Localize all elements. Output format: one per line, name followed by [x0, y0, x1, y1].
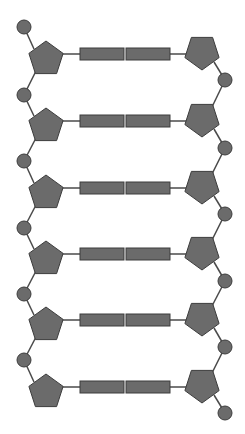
- dna-ladder-canvas: [0, 0, 245, 434]
- phosphate-left: [17, 353, 31, 367]
- sugar-pentagon-right: [185, 104, 219, 137]
- base-right: [126, 48, 170, 60]
- sugar-pentagon-left: [29, 307, 63, 340]
- phosphate-right: [218, 274, 232, 288]
- phosphate-left: [17, 287, 31, 301]
- sugar-pentagon-right: [185, 303, 219, 336]
- base-right: [126, 182, 170, 194]
- base-right: [126, 381, 170, 393]
- sugar-pentagon-left: [29, 374, 63, 407]
- base-left: [80, 48, 124, 60]
- phosphate-right: [218, 340, 232, 354]
- base-left: [80, 115, 124, 127]
- sugar-pentagon-left: [29, 175, 63, 208]
- base-right: [126, 248, 170, 260]
- phosphate-left: [17, 221, 31, 235]
- sugar-pentagon-right: [185, 171, 219, 204]
- phosphate-right: [218, 73, 232, 87]
- base-left: [80, 314, 124, 326]
- base-right: [126, 115, 170, 127]
- phosphate-left: [17, 88, 31, 102]
- sugar-pentagon-left: [29, 41, 63, 74]
- sugar-pentagon-right: [185, 370, 219, 403]
- sugar-pentagon-right: [185, 37, 219, 70]
- phosphate-left: [17, 20, 31, 34]
- phosphate-left: [17, 154, 31, 168]
- phosphate-right: [218, 141, 232, 155]
- base-right: [126, 314, 170, 326]
- sugar-pentagon-left: [29, 241, 63, 274]
- phosphate-right: [218, 406, 232, 420]
- phosphate-right: [218, 207, 232, 221]
- sugar-pentagon-right: [185, 237, 219, 270]
- base-left: [80, 182, 124, 194]
- base-left: [80, 248, 124, 260]
- sugar-pentagon-left: [29, 108, 63, 141]
- base-left: [80, 381, 124, 393]
